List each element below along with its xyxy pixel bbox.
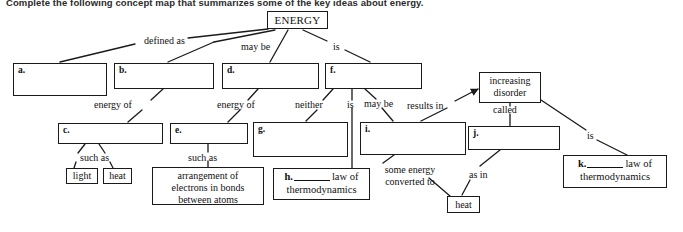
- edge-label-such-as-2: such as: [188, 153, 217, 163]
- edge-f-g-1: [323, 89, 333, 100]
- node-heat-converted[interactable]: heat: [447, 196, 480, 213]
- node-d[interactable]: d.: [222, 63, 319, 89]
- node-heat-converted-label: heat: [455, 199, 472, 210]
- edge-energy-d: [270, 30, 288, 62]
- edge-label-some-energy-converted-to: some energy converted to: [375, 164, 445, 188]
- node-h-law-of-thermodynamics[interactable]: h.law of thermodynamics: [273, 168, 370, 200]
- edge-i-heat-1: [383, 155, 394, 163]
- node-b[interactable]: b.: [114, 63, 214, 89]
- edge-label-energy-of-1: energy of: [94, 100, 132, 110]
- node-j-label: j.: [469, 127, 479, 139]
- node-f[interactable]: f.: [325, 63, 422, 89]
- node-e[interactable]: e.: [170, 123, 248, 144]
- node-c-label: c.: [59, 124, 70, 136]
- node-a-label: a.: [14, 64, 25, 76]
- edge-label-as-in: as in: [469, 170, 488, 180]
- node-heat-light-branch-label: heat: [109, 170, 126, 181]
- edge-label-is-f-h: is: [347, 100, 354, 110]
- edge-label-is-top: is: [333, 42, 340, 52]
- edge-increasing-k-2: [597, 140, 627, 155]
- edge-j-heat-2: [462, 180, 470, 195]
- node-light-label: light: [73, 170, 91, 181]
- edge-label-results-in: results in: [407, 101, 443, 111]
- edge-energy-definedas-2: [60, 44, 135, 62]
- node-energy[interactable]: ENERGY: [267, 11, 328, 29]
- edge-f-i-2: [382, 108, 393, 121]
- edge-energy-f-1: [303, 30, 327, 41]
- node-k-line2: thermodynamics: [568, 171, 662, 184]
- edge-label-called: called: [493, 105, 517, 115]
- node-light[interactable]: light: [66, 168, 98, 184]
- node-h-line2: thermodynamics: [278, 184, 365, 197]
- edge-label-may-be-f-i: may be: [364, 99, 393, 109]
- node-arrangement-of-electrons-label: arrangement of electrons in bonds betwee…: [172, 170, 245, 205]
- node-increasing-disorder[interactable]: increasing disorder: [479, 72, 541, 103]
- node-e-label: e.: [171, 124, 182, 136]
- node-k-tail: law of: [625, 158, 652, 169]
- node-g-label: g.: [254, 123, 265, 135]
- node-i[interactable]: i.: [360, 122, 466, 155]
- edge-d-e-2: [228, 110, 240, 122]
- edge-b-c-1: [151, 89, 163, 100]
- edge-label-neither: neither: [295, 100, 323, 110]
- node-a[interactable]: a.: [13, 63, 107, 96]
- concept-map-page: Complete the following concept map that …: [0, 0, 683, 232]
- node-k-line1: k.law of: [568, 158, 662, 171]
- node-j[interactable]: j.: [468, 126, 560, 150]
- node-i-label: i.: [361, 123, 370, 135]
- edge-j-heat-1: [480, 150, 500, 166]
- node-h-line1: h.law of: [278, 171, 365, 184]
- edge-energy-f-2: [345, 50, 370, 62]
- node-k-blank-rule: [587, 167, 623, 168]
- edge-label-energy-of-2: energy of: [217, 100, 255, 110]
- node-f-label: f.: [326, 64, 336, 76]
- node-h-letter: h.: [284, 171, 292, 182]
- edge-label-is-increasing-k: is: [587, 131, 594, 141]
- edge-i-increasing-2: [455, 89, 478, 101]
- edge-label-such-as-1: such as: [80, 153, 109, 163]
- node-increasing-disorder-label: increasing disorder: [489, 75, 530, 98]
- node-k-law-of-thermodynamics[interactable]: k.law of thermodynamics: [563, 155, 667, 188]
- edge-label-defined-as: defined as: [144, 36, 185, 46]
- node-arrangement-of-electrons[interactable]: arrangement of electrons in bonds betwee…: [152, 167, 264, 205]
- edge-label-may-be-top: may be: [241, 42, 270, 52]
- node-g[interactable]: g.: [253, 122, 348, 157]
- node-h-tail: law of: [332, 171, 359, 182]
- node-energy-label: ENERGY: [275, 14, 321, 26]
- edge-f-g-2: [306, 110, 317, 121]
- node-c[interactable]: c.: [58, 123, 163, 144]
- node-b-label: b.: [115, 64, 127, 76]
- edge-b-c-2: [128, 110, 142, 122]
- node-d-label: d.: [223, 64, 235, 76]
- node-heat-light-branch[interactable]: heat: [103, 168, 132, 184]
- node-k-letter: k.: [578, 158, 586, 169]
- node-h-blank-rule: [294, 180, 330, 181]
